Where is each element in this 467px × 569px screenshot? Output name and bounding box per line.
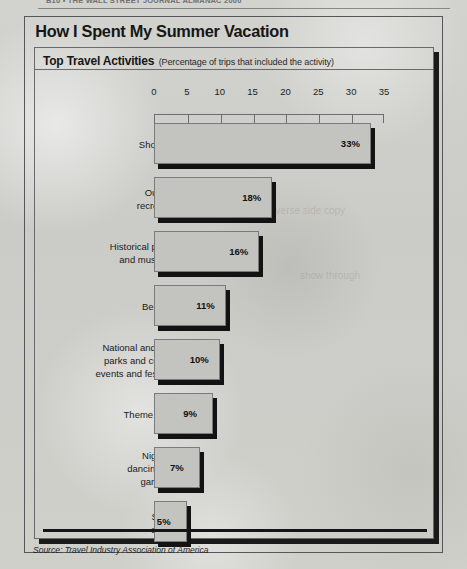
- bar-value-label: 10%: [190, 354, 209, 365]
- bar-value-label: 7%: [170, 462, 184, 473]
- bar-row: Nightlife, dancing and gambling7%: [35, 447, 435, 501]
- x-axis-tick-label: 20: [280, 86, 291, 97]
- x-axis-tick-label: 15: [247, 86, 258, 97]
- x-axis-tick-label: 30: [346, 86, 357, 97]
- panel-bottom-rule: [43, 529, 427, 532]
- x-axis-tick-label: 35: [379, 86, 390, 97]
- x-axis: [154, 114, 384, 123]
- bar-row: Shopping33%: [35, 123, 435, 177]
- source-note: Source: Travel Industry Association of A…: [33, 545, 208, 555]
- bar-value-label: 9%: [183, 408, 197, 419]
- bar-value-label: 11%: [196, 300, 215, 311]
- x-axis-tick-label: 10: [214, 86, 225, 97]
- chart-subtitle: (Percentage of trips that included the a…: [159, 57, 334, 67]
- bar-value-label: 5%: [157, 516, 171, 527]
- figure-title: How I Spent My Summer Vacation: [35, 22, 288, 41]
- page-header-text: B10 • THE WALL STREET JOURNAL ALMANAC 20…: [46, 0, 242, 5]
- bar-row: National and state parks and cultural ev…: [35, 339, 435, 393]
- bar-row: Beaches11%: [35, 285, 435, 339]
- bar-row: Theme parks9%: [35, 393, 435, 447]
- x-axis-tick-label: 0: [151, 86, 156, 97]
- bar[interactable]: [154, 285, 226, 326]
- plot-area: Shopping33%Outdoor recreation18%Historic…: [35, 70, 435, 539]
- bar-row: Outdoor recreation18%: [35, 177, 435, 231]
- chart-panel-header-inner: Top Travel Activities (Percentage of tri…: [43, 51, 334, 69]
- page-running-header: B10 • THE WALL STREET JOURNAL ALMANAC 20…: [0, 0, 467, 12]
- chart-panel-header: Top Travel Activities (Percentage of tri…: [35, 48, 433, 70]
- bar-value-label: 18%: [242, 192, 261, 203]
- chart-panel: Top Travel Activities (Percentage of tri…: [34, 47, 434, 539]
- bar-row: Historical places and museums16%: [35, 231, 435, 285]
- x-axis-tick-label: 5: [184, 86, 189, 97]
- bar[interactable]: [154, 123, 371, 164]
- bar-series: Shopping33%Outdoor recreation18%Historic…: [35, 123, 435, 555]
- figure-box: How I Spent My Summer Vacation Top Trave…: [24, 16, 443, 553]
- x-axis-tick-label: 25: [313, 86, 324, 97]
- page-header-rule: [38, 8, 450, 9]
- bar-value-label: 33%: [341, 138, 360, 149]
- bar-value-label: 16%: [229, 246, 248, 257]
- chart-title: Top Travel Activities: [43, 54, 154, 68]
- bar[interactable]: [154, 339, 220, 380]
